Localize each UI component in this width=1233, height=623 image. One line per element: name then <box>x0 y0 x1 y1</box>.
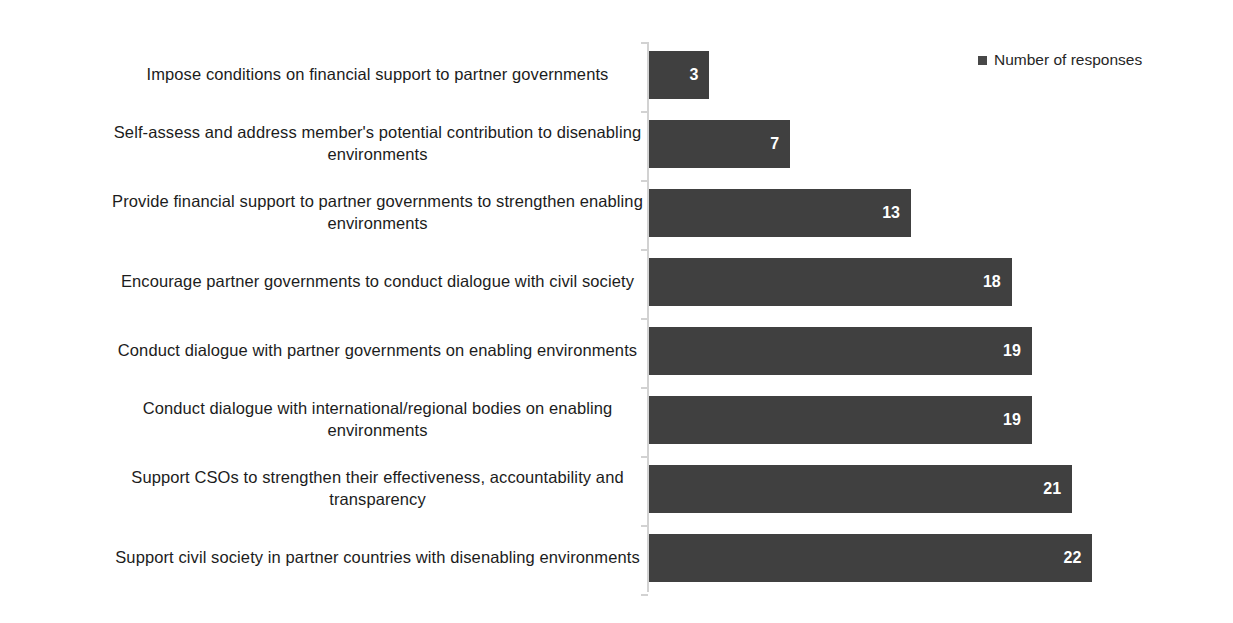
axis-tick <box>641 387 648 389</box>
bar-container: 22 <box>649 534 1092 582</box>
bar[interactable]: 7 <box>649 120 790 168</box>
bar-container: 13 <box>649 189 911 237</box>
bar-value-label: 21 <box>1043 481 1061 497</box>
bar[interactable]: 21 <box>649 465 1072 513</box>
bar-row: Support CSOs to strengthen their effecti… <box>0 454 1233 523</box>
bar-value-label: 18 <box>983 274 1001 290</box>
bar[interactable]: 3 <box>649 51 709 99</box>
axis-tick <box>641 42 648 44</box>
bar-container: 18 <box>649 258 1012 306</box>
bar-row: Support civil society in partner countri… <box>0 523 1233 592</box>
bar-value-label: 19 <box>1003 412 1021 428</box>
bar-row: Impose conditions on financial support t… <box>0 40 1233 109</box>
bar-value-label: 3 <box>690 67 699 83</box>
bar-value-label: 7 <box>770 136 779 152</box>
category-label: Conduct dialogue with international/regi… <box>110 398 645 440</box>
plot-area: Impose conditions on financial support t… <box>0 40 1233 592</box>
bar[interactable]: 13 <box>649 189 911 237</box>
axis-tick <box>641 180 648 182</box>
bar-value-label: 19 <box>1003 343 1021 359</box>
category-label: Conduct dialogue with partner government… <box>110 340 645 361</box>
category-label: Impose conditions on financial support t… <box>110 64 645 85</box>
category-label: Provide financial support to partner gov… <box>110 191 645 233</box>
bar-container: 21 <box>649 465 1072 513</box>
bar-row: Self-assess and address member's potenti… <box>0 109 1233 178</box>
bar-value-label: 13 <box>882 205 900 221</box>
bar[interactable]: 19 <box>649 327 1032 375</box>
bar-container: 19 <box>649 327 1032 375</box>
axis-tick <box>641 594 648 596</box>
category-label: Self-assess and address member's potenti… <box>110 122 645 164</box>
bar[interactable]: 22 <box>649 534 1092 582</box>
bar[interactable]: 19 <box>649 396 1032 444</box>
category-label: Encourage partner governments to conduct… <box>110 271 645 292</box>
bar-container: 19 <box>649 396 1032 444</box>
bar-value-label: 22 <box>1064 550 1082 566</box>
bar[interactable]: 18 <box>649 258 1012 306</box>
bar-chart: Number of responses Impose conditions on… <box>0 0 1233 623</box>
bar-row: Encourage partner governments to conduct… <box>0 247 1233 316</box>
bar-rows: Impose conditions on financial support t… <box>0 40 1233 592</box>
axis-tick <box>641 318 648 320</box>
axis-tick <box>641 456 648 458</box>
axis-tick <box>641 525 648 527</box>
category-label: Support CSOs to strengthen their effecti… <box>110 467 645 509</box>
bar-row: Conduct dialogue with partner government… <box>0 316 1233 385</box>
category-label: Support civil society in partner countri… <box>110 547 645 568</box>
bar-row: Conduct dialogue with international/regi… <box>0 385 1233 454</box>
bar-container: 7 <box>649 120 790 168</box>
axis-tick <box>641 111 648 113</box>
bar-row: Provide financial support to partner gov… <box>0 178 1233 247</box>
bar-container: 3 <box>649 51 709 99</box>
axis-tick <box>641 249 648 251</box>
